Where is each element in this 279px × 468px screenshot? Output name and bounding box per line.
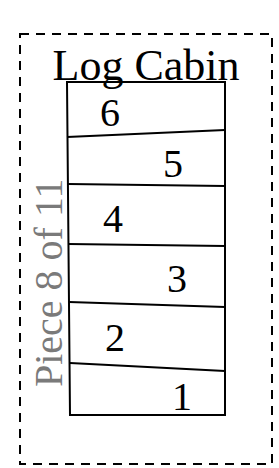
seam-2-1 <box>70 363 225 371</box>
strip-number-1: 1 <box>172 374 192 419</box>
piece-label: Piece 8 of 11 <box>26 179 71 387</box>
strip-number-2: 2 <box>105 315 125 360</box>
strip-number-4: 4 <box>103 196 123 241</box>
seam-3-2 <box>69 302 225 307</box>
pattern-piece-diagram: Log Cabin Piece 8 of 11 6 5 4 3 2 1 <box>0 0 279 468</box>
strip-number-6: 6 <box>100 90 120 135</box>
strip-number-5: 5 <box>163 141 183 186</box>
seam-6-5 <box>67 130 225 137</box>
strip-number-3: 3 <box>167 256 187 301</box>
seam-4-3 <box>68 244 225 246</box>
strip-outline <box>67 82 225 415</box>
seam-5-4 <box>68 184 225 186</box>
